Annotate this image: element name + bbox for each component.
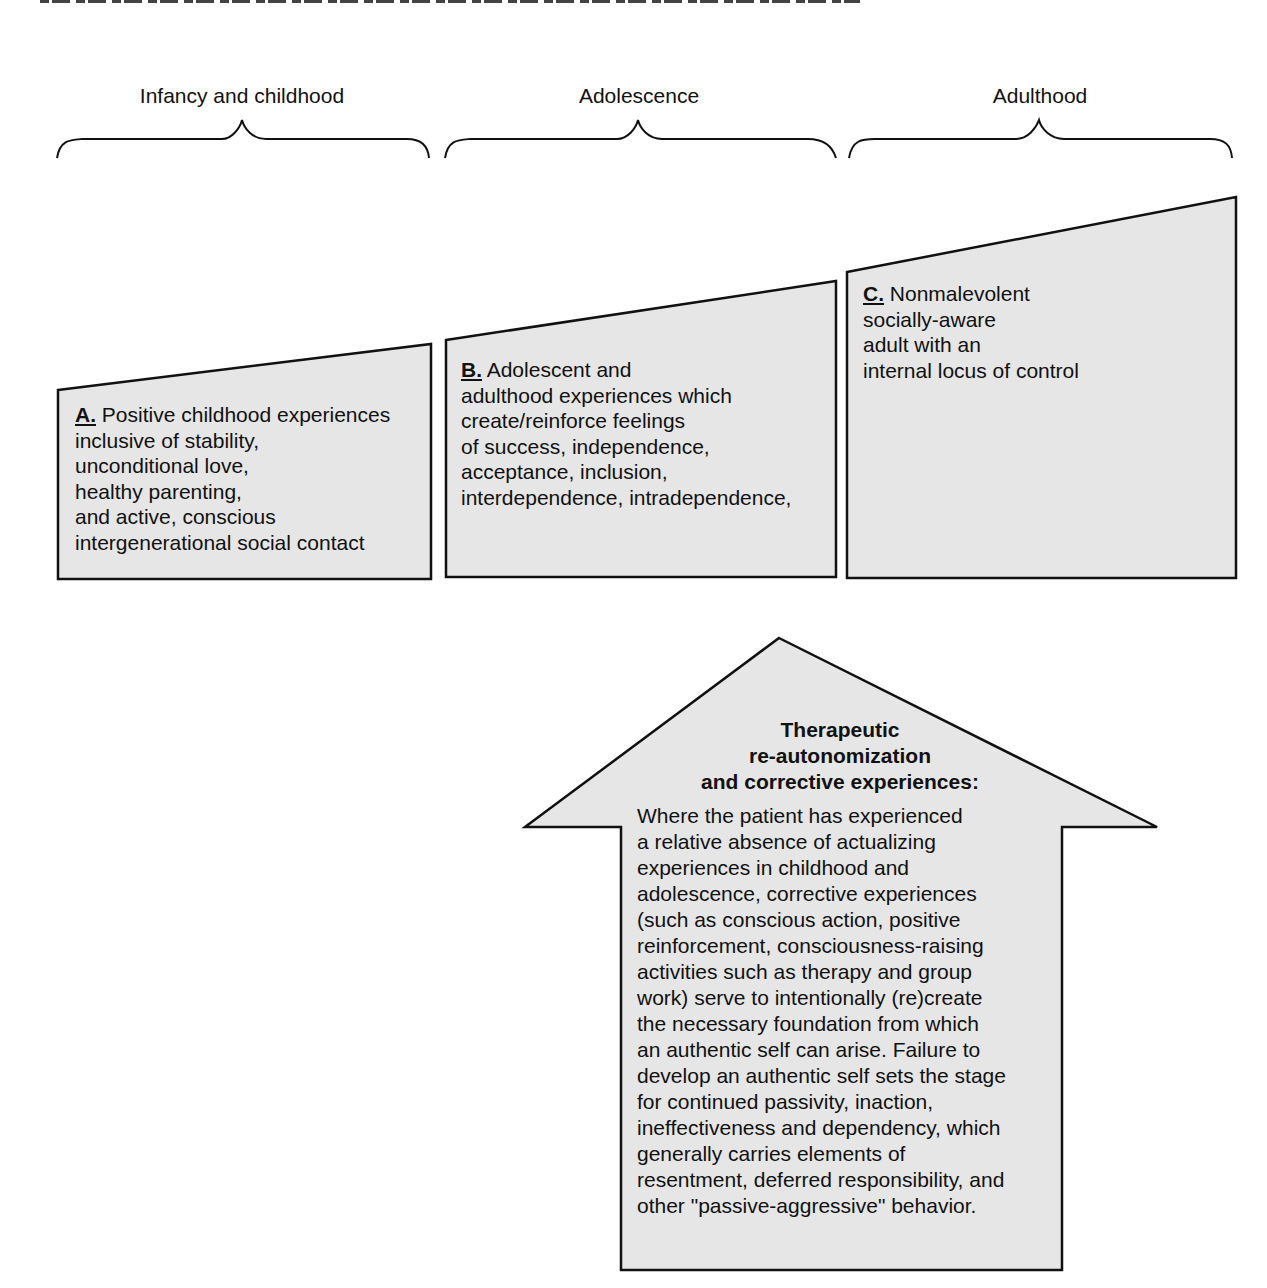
arrow-body-text: Where the patient has experienced a rela… xyxy=(637,803,1006,1219)
box-a-key: A. xyxy=(75,403,96,426)
box-b-key: B. xyxy=(461,358,482,381)
box-c-text: C. Nonmalevolent socially-aware adult wi… xyxy=(863,281,1079,383)
brace-adulthood xyxy=(849,120,1232,158)
box-a-text: A. Positive childhood experiences inclus… xyxy=(75,402,390,555)
brace-infancy xyxy=(57,120,429,158)
box-b-text: B. Adolescent and adulthood experiences … xyxy=(461,357,791,510)
box-c-key: C. xyxy=(863,282,884,305)
stage-label-adulthood: Adulthood xyxy=(850,84,1230,108)
stage-label-infancy: Infancy and childhood xyxy=(52,84,432,108)
diagram-shapes xyxy=(0,0,1267,1288)
box-c-shape xyxy=(847,197,1236,578)
stage-label-adolescence: Adolescence xyxy=(449,84,829,108)
arrow-title: Therapeutic re-autonomization and correc… xyxy=(600,717,1080,795)
brace-adolescence xyxy=(445,120,836,158)
